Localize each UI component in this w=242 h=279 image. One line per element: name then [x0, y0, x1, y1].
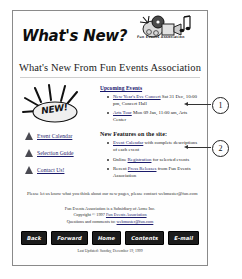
list-item: Online Registration for selected events: [107, 157, 201, 164]
document-frame: What's New? Fun Events: [12, 10, 208, 266]
contact-prefix: Questions and comments to:: [67, 219, 117, 224]
page-title: What's New?: [22, 27, 127, 45]
footer: Fun Events Association is a Subsidiary o…: [13, 206, 207, 225]
feature-detail: for selected events: [151, 157, 189, 162]
feature-link[interactable]: Event Calendar: [113, 140, 143, 145]
feature-prefix: Recent: [113, 166, 128, 171]
main-heading: What's New From Fun Events Association: [13, 59, 207, 77]
sidebar-item-label: Selection Guide: [37, 150, 74, 156]
heading-divider: [20, 77, 200, 78]
upcoming-events-heading: Upcoming Events: [100, 85, 201, 91]
logo-caption: Fun Events Association: [137, 35, 185, 39]
sidebar-item-label: Contact Us!: [37, 167, 64, 173]
email-button[interactable]: E-mail: [168, 231, 199, 245]
home-button[interactable]: Home: [92, 231, 121, 245]
back-button[interactable]: Back: [21, 231, 47, 245]
content-columns: NEW! Event Calendar Selection Guide Cont…: [13, 83, 207, 183]
callout-marker-2: 2: [212, 140, 229, 157]
triangle-bullet-icon: [25, 149, 33, 157]
triangle-bullet-icon: [25, 166, 33, 174]
navigation-bar: Back Forward Home Contents E-mail: [13, 231, 207, 245]
last-modified-text: Last Updated: Sunday, December 19, 1999: [13, 249, 207, 253]
page-header: What's New? Fun Events: [13, 11, 207, 59]
new-burst: NEW!: [19, 84, 93, 132]
sidebar: NEW! Event Calendar Selection Guide Cont…: [19, 83, 97, 183]
callout-leader-1: [186, 104, 211, 105]
feature-link[interactable]: Press Releases: [128, 166, 157, 171]
copyright-prefix: Copyright © 1997: [73, 212, 106, 217]
upcoming-events-list: New Year's Eve Concert Sat 31 Dec, 10:00…: [107, 94, 201, 124]
logo: Fun Events Association: [131, 14, 193, 58]
copyright-link[interactable]: Fun Events Association: [106, 212, 147, 217]
sidebar-item-contact-us[interactable]: Contact Us!: [25, 166, 97, 174]
triangle-bullet-icon: [25, 132, 33, 140]
callout-arrow-1: [184, 102, 188, 106]
callout-arrow-2: [184, 145, 188, 149]
sidebar-item-event-calendar[interactable]: Event Calendar: [25, 132, 97, 140]
contents-button[interactable]: Contents: [125, 231, 164, 245]
list-item: Recent Press Releases from Fun Events As…: [107, 166, 201, 180]
event-link[interactable]: New Year's Eve Concert: [113, 94, 161, 99]
list-item: Arts Tour Mon 09 Jan, 11:00 am, Arts Cen…: [107, 110, 201, 124]
main-content: Upcoming Events New Year's Eve Concert S…: [97, 83, 201, 183]
sidebar-item-selection-guide[interactable]: Selection Guide: [25, 149, 97, 157]
new-features-heading: New Features on the site:: [100, 131, 201, 137]
footer-line-contact: Questions and comments to: webmaster@fun…: [13, 219, 207, 225]
forward-button[interactable]: Forward: [51, 231, 88, 245]
sidebar-item-label: Event Calendar: [37, 133, 72, 139]
callout-marker-1: 1: [212, 97, 229, 114]
event-link[interactable]: Arts Tour: [113, 110, 132, 115]
page-root: What's New? Fun Events: [0, 0, 242, 279]
closing-paragraph: Please let us know what you think about …: [27, 191, 199, 198]
callout-leader-2: [186, 147, 211, 148]
webmaster-email-link[interactable]: webmaster@fun.com: [117, 219, 154, 224]
feature-prefix: Online: [113, 157, 128, 162]
feature-link[interactable]: Registration: [128, 157, 152, 162]
